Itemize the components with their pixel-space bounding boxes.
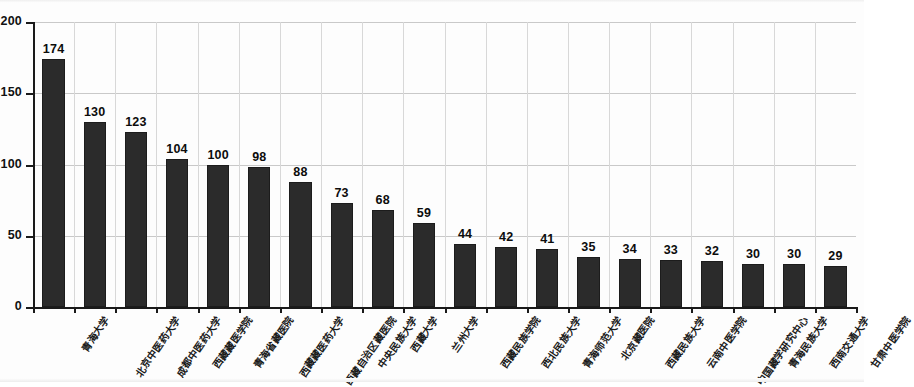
bar [42,59,64,307]
bar-value-label: 34 [609,242,650,256]
x-axis-tick [239,307,241,313]
x-axis-category-label: 青海大学 [80,315,112,354]
gridline-vertical [74,22,75,307]
bar-value-label: 98 [239,150,280,164]
bar-value-label: 130 [74,105,115,119]
x-axis-category-label: 成都中医药大学 [175,315,224,379]
x-axis-category-label: 云南中医学院 [706,315,749,371]
bar-value-label: 35 [568,240,609,254]
gridline-vertical [115,22,116,307]
bar [742,264,764,307]
x-axis-category-label: 西南交通大学 [829,315,872,371]
bar [84,122,106,307]
bar-value-label: 41 [527,232,568,246]
x-axis-tick [815,307,817,313]
gridline-vertical [691,22,692,307]
gridline-vertical [733,22,734,307]
gridline-vertical [774,22,775,307]
x-axis-tick [156,307,158,313]
x-axis-tick [609,307,611,313]
x-axis-tick [445,307,447,313]
gridline-vertical [156,22,157,307]
gridline-vertical [445,22,446,307]
bar [289,182,311,307]
gridline-vertical [198,22,199,307]
bar [331,203,353,307]
scan-artifact-bottom [0,378,864,382]
bar-value-label: 174 [33,42,74,56]
y-axis-tick-label: 50 [0,228,22,242]
bar [454,244,476,307]
x-axis-tick [403,307,405,313]
bar-value-label: 29 [815,249,856,263]
x-axis-tick [774,307,776,313]
bar [248,167,270,307]
bar [660,260,682,307]
x-axis-tick [33,307,35,313]
y-axis-tick-label: 200 [0,14,22,28]
bar [824,266,846,307]
x-axis-category-label: 西藏民族学院 [500,315,543,371]
x-axis-category-label: 西北民族大学 [541,315,584,371]
gridline-vertical [403,22,404,307]
bar-value-label: 123 [115,115,156,129]
y-axis-tick-label: 100 [0,157,22,171]
gridline-vertical [527,22,528,307]
gridline-vertical [362,22,363,307]
x-axis-category-label: 西藏藏医药大学 [298,315,347,379]
x-axis-category-label: 青海省藏医院 [253,315,296,371]
x-axis-tick [115,307,117,313]
x-axis-tick [691,307,693,313]
bar [536,249,558,307]
x-axis-category-label: 兰州大学 [450,315,482,354]
bar [166,159,188,307]
gridline-vertical [650,22,651,307]
x-axis-tick [198,307,200,313]
y-axis-tick [26,307,33,309]
y-axis-tick [26,236,33,238]
bar-value-label: 30 [733,247,774,261]
bar-value-label: 73 [321,186,362,200]
gridline-vertical [239,22,240,307]
x-axis-tick [486,307,488,313]
bar-value-label: 68 [362,193,403,207]
gridline-vertical [815,22,816,307]
x-axis-tick [733,307,735,313]
x-axis-tick [362,307,364,313]
x-axis-category-label: 甘肃中医学院 [870,315,913,371]
bar-value-label: 42 [486,230,527,244]
bar-value-label: 32 [691,244,732,258]
bar [372,210,394,307]
bar-value-label: 100 [198,148,239,162]
bar [783,264,805,307]
bar-value-label: 88 [280,165,321,179]
bar [207,165,229,308]
x-axis-tick [321,307,323,313]
x-axis-tick [650,307,652,313]
y-axis-tick [26,165,33,167]
bar [413,223,435,307]
bar [619,259,641,307]
bar [495,247,517,307]
y-axis-tick-label: 0 [0,299,22,313]
x-axis-tick [280,307,282,313]
bar [577,257,599,307]
x-axis-tick [74,307,76,313]
y-axis-tick-label: 150 [0,85,22,99]
scan-artifact-top [0,0,864,3]
bar [125,132,147,307]
x-axis-tick [527,307,529,313]
y-axis-tick [26,93,33,95]
bar [701,261,723,307]
x-axis-category-label: 青海师范大学 [582,315,625,371]
y-axis-line [33,22,35,308]
plot-area: 1741301231041009888736859444241353433323… [33,22,856,307]
gridline-vertical [568,22,569,307]
gridline-vertical [609,22,610,307]
x-axis-category-label: 西藏民族大学 [665,315,708,371]
x-axis-tick [568,307,570,313]
x-axis-tick [856,307,858,313]
x-axis-category-label: 北京藏医院 [619,315,657,362]
y-axis-tick [26,22,33,24]
bar-value-label: 44 [445,227,486,241]
